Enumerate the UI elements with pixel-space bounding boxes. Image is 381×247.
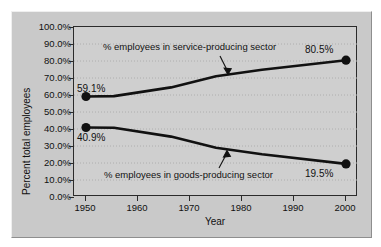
y-tick-label-90: 90.0% [9, 39, 71, 49]
y-tick-label-100: 100.0% [9, 22, 71, 32]
annotation-goods-label: % employees in goods-producing sector [104, 169, 273, 180]
y-tick-label-0: 0.0% [9, 192, 71, 202]
marker-service-2000 [341, 56, 350, 65]
y-tick-label-40: 40.0% [9, 124, 71, 134]
data-label-goods-1950: 40.9% [77, 132, 105, 143]
x-tick-mark [241, 196, 242, 201]
x-tick-mark [137, 196, 138, 201]
annotation-service-label: % employees in service-producing sector [103, 41, 276, 52]
annotation-arrow-goods [219, 151, 230, 169]
y-tick-label-20: 20.0% [9, 158, 71, 168]
marker-goods-2000 [341, 159, 350, 168]
x-tick-label-2000: 2000 [323, 202, 367, 213]
chart-figure: Percent total employees 100.0% 90.0% 80.… [0, 0, 381, 247]
y-tick-label-30: 30.0% [9, 141, 71, 151]
x-tick-label-1980: 1980 [219, 202, 263, 213]
marker-goods-1950 [81, 123, 90, 132]
data-label-goods-2000: 19.5% [305, 168, 333, 179]
data-label-service-2000: 80.5% [305, 44, 333, 55]
x-tick-label-1970: 1970 [167, 202, 211, 213]
data-label-service-1950: 59.1% [77, 83, 105, 94]
x-tick-mark [345, 196, 346, 201]
y-tick-label-70: 70.0% [9, 73, 71, 83]
x-tick-label-1990: 1990 [271, 202, 315, 213]
annotation-arrow-service [220, 56, 231, 75]
x-tick-label-1950: 1950 [63, 202, 107, 213]
x-tick-label-1960: 1960 [115, 202, 159, 213]
y-tick-label-60: 60.0% [9, 90, 71, 100]
y-tick-label-50: 50.0% [9, 107, 71, 117]
y-tick-label-80: 80.0% [9, 56, 71, 66]
x-tick-mark [189, 196, 190, 201]
x-tick-mark [293, 196, 294, 201]
y-tick-label-10: 10.0% [9, 175, 71, 185]
x-tick-mark [85, 196, 86, 201]
x-axis-title: Year [73, 216, 357, 227]
y-tick-mark [69, 197, 74, 198]
